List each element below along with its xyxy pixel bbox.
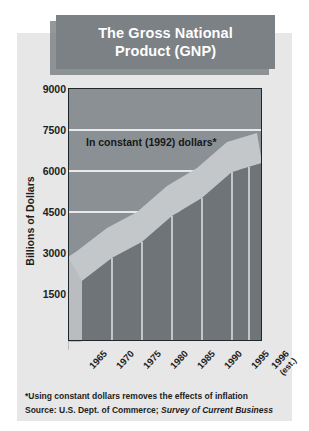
y-axis: 9000 7500 6000 4500 3000 1500: [12, 0, 66, 431]
y-tick-9000: 9000: [20, 83, 66, 95]
chart-figure: The Gross National Product (GNP): [0, 0, 309, 431]
footnote-source-prefix: Source: U.S. Dept. of Commerce;: [25, 405, 161, 415]
plot-wrapper: In constant (1992) dollars* 9000 7500 60…: [0, 0, 309, 431]
footnotes: *Using constant dollars removes the effe…: [25, 391, 287, 415]
footnote-source: Source: U.S. Dept. of Commerce; Survey o…: [25, 405, 287, 415]
footnote-inflation: *Using constant dollars removes the effe…: [25, 391, 287, 401]
gnp-area-ribbon: [58, 85, 274, 365]
chart-annotation: In constant (1992) dollars*: [86, 136, 217, 148]
y-tick-7500: 7500: [20, 124, 66, 136]
footnote-source-publication: Survey of Current Business: [161, 405, 273, 415]
y-axis-title: Billions of Dollars: [24, 146, 36, 296]
